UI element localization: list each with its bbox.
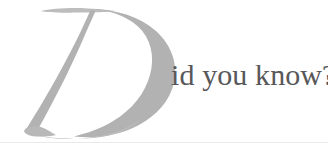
dropcap-d-container: D — [4, 2, 180, 143]
headline-text: id you know? — [171, 58, 323, 92]
dropcap-bowl — [74, 9, 175, 137]
dropcap-foot-serif — [24, 126, 56, 136]
bottom-divider — [0, 142, 328, 143]
dropcap-d-glyph — [24, 8, 175, 139]
dropcap-d-icon: D — [4, 2, 180, 143]
did-you-know-banner: D id you know? — [0, 0, 328, 143]
dropcap-stem — [26, 10, 96, 136]
